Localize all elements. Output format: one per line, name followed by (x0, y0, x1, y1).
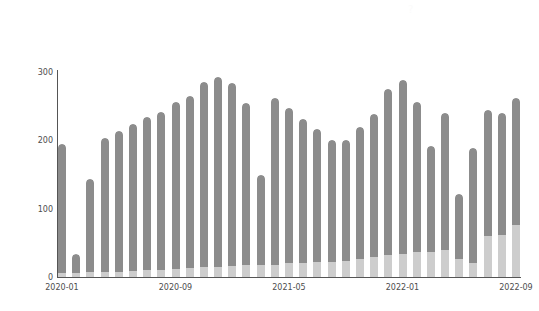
bar-2022-05 (455, 194, 463, 277)
bar-segment-upper (469, 148, 477, 263)
bar-segment-upper (285, 108, 293, 264)
bar-segment-upper (427, 146, 435, 252)
bar-2021-09 (342, 140, 350, 277)
x-tick-label-2021-05: 2021-05 (272, 283, 305, 292)
bar-2021-11 (370, 114, 378, 277)
bar-segment-upper (129, 124, 137, 271)
bar-2020-08 (157, 112, 165, 277)
bar-segment-lower (157, 270, 165, 277)
bar-segment-upper (299, 119, 307, 262)
bar-segment-upper (370, 114, 378, 256)
y-tick-label-300: 300 (38, 68, 53, 77)
bar-segment-upper (172, 102, 180, 269)
bar-segment-lower (214, 267, 222, 277)
x-axis-line (57, 277, 521, 278)
bar-segment-upper (356, 127, 364, 260)
bar-2020-10 (186, 96, 194, 277)
bar-2020-02 (72, 254, 80, 277)
y-tick-label-200: 200 (38, 136, 53, 145)
bar-segment-lower (115, 272, 123, 277)
bar-segment-upper (242, 103, 250, 265)
bar-2022-09 (512, 98, 520, 277)
x-tick-label-2020-09: 2020-09 (159, 283, 192, 292)
bar-segment-lower (58, 273, 66, 277)
bar-segment-lower (228, 266, 236, 277)
bar-segment-upper (399, 80, 407, 254)
bar-segment-lower (86, 272, 94, 277)
bar-segment-upper (214, 77, 222, 267)
bar-segment-upper (484, 110, 492, 236)
x-tick-label-2020-01: 2020-01 (45, 283, 78, 292)
bar-2020-07 (143, 117, 151, 277)
bar-2020-09 (172, 102, 180, 277)
bar-segment-upper (143, 117, 151, 270)
bar-segment-upper (101, 138, 109, 272)
bar-segment-lower (186, 268, 194, 277)
bar-segment-upper (413, 102, 421, 252)
plot-area (58, 72, 520, 277)
bar-segment-lower (328, 262, 336, 277)
watermark-artifact: ? (408, 4, 413, 15)
bar-segment-lower (242, 265, 250, 277)
bar-segment-lower (512, 225, 520, 277)
bar-segment-upper (342, 140, 350, 260)
bar-segment-lower (455, 259, 463, 277)
bar-segment-lower (271, 265, 279, 277)
bar-segment-lower (399, 254, 407, 277)
bar-segment-upper (186, 96, 194, 268)
bar-2022-07 (484, 110, 492, 277)
bar-2020-03 (86, 179, 94, 277)
bar-segment-upper (498, 113, 506, 235)
bar-2021-12 (384, 89, 392, 277)
bar-segment-upper (441, 113, 449, 250)
bar-2022-02 (413, 102, 421, 277)
bar-segment-upper (328, 140, 336, 262)
bar-segment-lower (200, 267, 208, 277)
bar-segment-lower (342, 261, 350, 277)
bar-segment-upper (257, 175, 265, 266)
x-tick-label-2022-09: 2022-09 (499, 283, 532, 292)
bar-segment-upper (86, 179, 94, 273)
bar-2021-01 (228, 83, 236, 277)
y-tick-label-100: 100 (38, 204, 53, 213)
bar-segment-lower (129, 271, 137, 277)
bar-2021-03 (257, 175, 265, 278)
bar-2022-06 (469, 148, 477, 277)
chart-figure: ? 0100200300 2020-012020-092021-052022-0… (0, 0, 539, 311)
bar-segment-lower (299, 263, 307, 277)
bar-segment-lower (498, 235, 506, 277)
bar-segment-upper (313, 129, 321, 262)
bar-2021-04 (271, 98, 279, 277)
bar-2020-04 (101, 138, 109, 277)
bar-segment-upper (58, 144, 66, 272)
bar-segment-lower (101, 272, 109, 277)
bar-segment-lower (427, 252, 435, 277)
bar-segment-lower (143, 270, 151, 277)
bar-segment-lower (413, 252, 421, 277)
bar-2020-01 (58, 144, 66, 277)
bar-2020-05 (115, 131, 123, 277)
bar-2021-07 (313, 129, 321, 277)
bar-segment-lower (484, 236, 492, 277)
bar-segment-lower (257, 265, 265, 277)
bar-2021-05 (285, 108, 293, 277)
bar-2021-06 (299, 119, 307, 277)
bar-2021-10 (356, 127, 364, 277)
bar-segment-lower (72, 273, 80, 277)
bar-segment-upper (115, 131, 123, 271)
bar-segment-lower (172, 269, 180, 277)
bar-2021-02 (242, 103, 250, 277)
bar-segment-upper (157, 112, 165, 271)
bar-segment-lower (370, 257, 378, 277)
bar-2020-11 (200, 82, 208, 277)
y-tick-label-0: 0 (48, 273, 53, 282)
x-tick-label-2022-01: 2022-01 (386, 283, 419, 292)
bar-segment-lower (313, 262, 321, 277)
bar-segment-upper (271, 98, 279, 265)
bar-2020-06 (129, 124, 137, 277)
bar-segment-lower (441, 250, 449, 277)
bar-segment-upper (72, 254, 80, 273)
bar-segment-lower (356, 259, 364, 277)
bar-2022-04 (441, 113, 449, 277)
y-axis-tick-labels: 0100200300 (20, 0, 53, 311)
